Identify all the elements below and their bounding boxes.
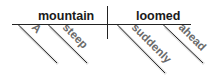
modifier-word: steep [61,21,91,51]
modifier-word: A [30,21,44,35]
modifier-steep: steep [48,21,90,64]
modifier-word: ahead [177,21,209,53]
subject-word: mountain [38,9,94,23]
verb-word: loomed [136,9,180,23]
sentence-diagram: mountain loomed A steep suddenly ahead [0,0,218,79]
